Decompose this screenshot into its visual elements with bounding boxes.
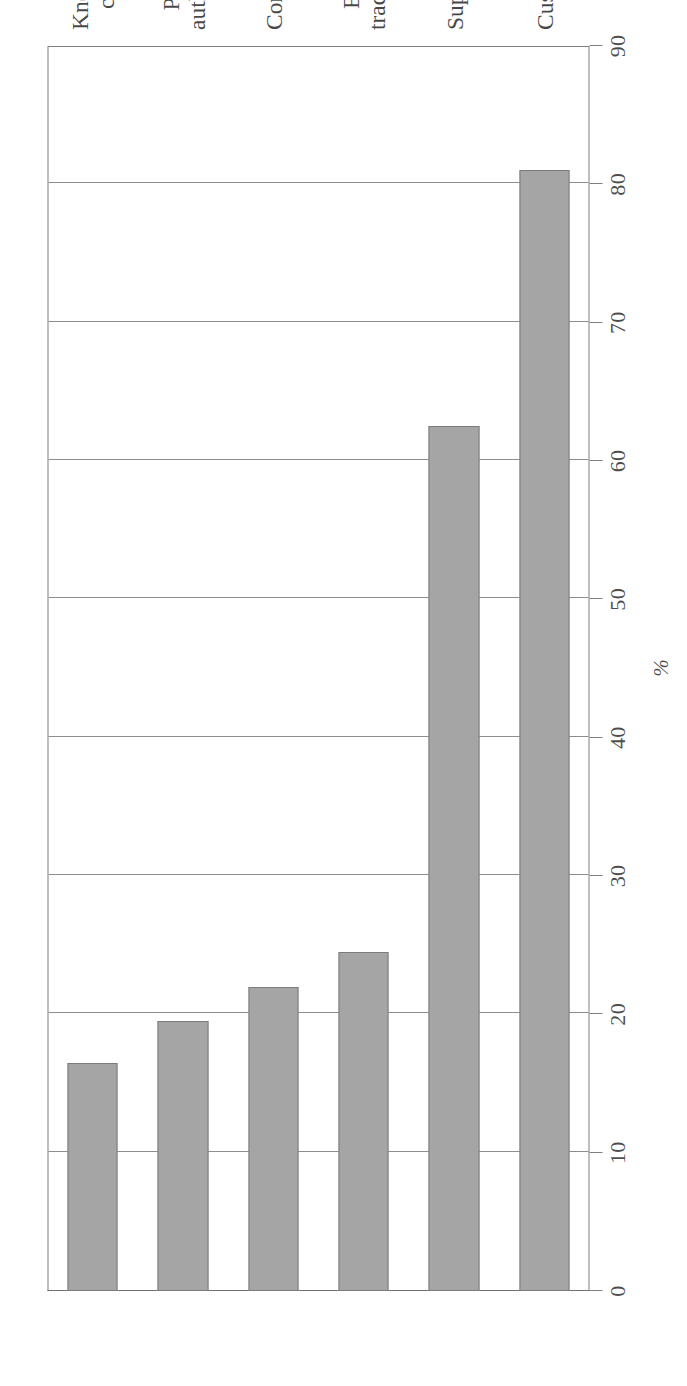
axis-tick-mark (589, 183, 602, 184)
axis-tick-label: 40 (606, 726, 628, 749)
axis-tick-mark (589, 45, 602, 46)
category-label: Customers (531, 0, 557, 30)
axis-tick-label: 50 (606, 588, 628, 611)
gridline (48, 1012, 588, 1013)
category-label: Publicauthorities (157, 0, 209, 30)
category-label: Suppliers (441, 0, 467, 30)
bar (338, 952, 389, 1291)
axis-tick-label: 30 (606, 865, 628, 888)
gridline (48, 459, 588, 460)
axis-tick-mark (589, 875, 602, 876)
axis-tick-mark (589, 1290, 602, 1291)
axis-tick-label: 60 (606, 450, 628, 473)
bar (67, 1063, 118, 1291)
category-label: Consultants (260, 0, 286, 30)
axis-tick-label: 10 (606, 1141, 628, 1164)
gridline (48, 182, 588, 183)
axis-tick-label: 80 (606, 173, 628, 196)
axis-tick-label: 70 (606, 311, 628, 334)
bar-chart: 0102030405060708090CustomersSuppliersEdu… (0, 0, 687, 1386)
gridline (48, 597, 588, 598)
bar (428, 426, 479, 1291)
axis-tick-label: 20 (606, 1003, 628, 1026)
axis-tick-mark (589, 460, 602, 461)
axis-tick-mark (589, 737, 602, 738)
bar (519, 171, 570, 1292)
category-label: Knowledgecentres (66, 0, 118, 30)
axis-tick-mark (589, 322, 602, 323)
axis-tick-label: 0 (606, 1285, 628, 1296)
bar (248, 987, 299, 1291)
figure-container: 0102030405060708090CustomersSuppliersEdu… (0, 0, 687, 1386)
axis-tick-mark (589, 598, 602, 599)
gridline (48, 736, 588, 737)
axis-title: % (648, 659, 673, 677)
plot-area (47, 46, 589, 1291)
gridline (48, 321, 588, 322)
bar (157, 1021, 208, 1291)
axis-tick-mark (589, 1152, 602, 1153)
gridline (48, 1151, 588, 1152)
value-axis-baseline (47, 1290, 589, 1291)
gridline (48, 874, 588, 875)
axis-tick-mark (589, 1013, 602, 1014)
axis-tick-label: 90 (606, 35, 628, 58)
category-label: Education andtrading institutions (337, 0, 389, 30)
